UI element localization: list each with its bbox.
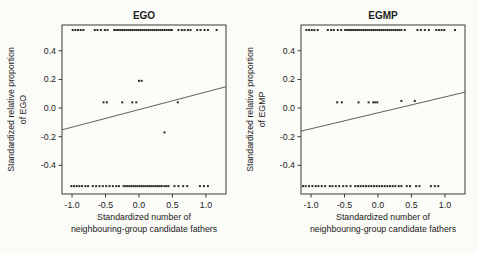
y-tick-label: 0.2 (283, 74, 295, 84)
data-point (133, 29, 135, 31)
data-point (350, 29, 352, 31)
data-point (157, 185, 159, 187)
data-point (392, 185, 394, 187)
data-point (70, 185, 72, 187)
data-point (346, 29, 348, 31)
data-point (155, 185, 157, 187)
x-tick-label: -0.5 (337, 200, 352, 210)
data-point (171, 29, 173, 31)
data-point (372, 101, 374, 103)
data-point (143, 185, 145, 187)
data-point (137, 185, 139, 187)
data-point (147, 185, 149, 187)
data-point (104, 29, 106, 31)
data-point (163, 29, 165, 31)
data-point (438, 29, 440, 31)
data-point (73, 185, 75, 187)
data-point (149, 185, 151, 187)
data-point (138, 80, 140, 82)
data-point (165, 185, 167, 187)
data-point (199, 185, 201, 187)
data-point (336, 101, 338, 103)
data-point (430, 185, 432, 187)
data-point (200, 29, 202, 31)
y-axis-label: Standardized relative proportion (245, 47, 255, 172)
data-point (139, 29, 141, 31)
y-axis-label: Standardized relative proportion (6, 47, 16, 172)
data-point (400, 29, 402, 31)
data-point (311, 185, 313, 187)
data-point (441, 29, 443, 31)
data-point (131, 101, 133, 103)
data-point (360, 185, 362, 187)
data-point (324, 185, 326, 187)
data-point (106, 101, 108, 103)
data-point (342, 185, 344, 187)
data-point (302, 185, 304, 187)
data-point (305, 185, 307, 187)
data-point (143, 29, 145, 31)
data-point (84, 185, 86, 187)
data-point (161, 185, 163, 187)
data-point (373, 185, 375, 187)
data-point (125, 185, 127, 187)
data-point (400, 185, 402, 187)
data-point (341, 101, 343, 103)
data-point (416, 29, 418, 31)
data-point (121, 29, 123, 31)
x-tick-label: -1.0 (64, 200, 79, 210)
data-point (149, 29, 151, 31)
data-point (435, 29, 437, 31)
data-point (82, 29, 84, 31)
x-tick-label: 0.0 (372, 200, 384, 210)
data-point (376, 185, 378, 187)
data-point (196, 29, 198, 31)
data-point (87, 185, 89, 187)
data-point (153, 29, 155, 31)
data-point (308, 29, 310, 31)
data-point (77, 29, 79, 31)
data-point (76, 185, 78, 187)
data-point (333, 29, 335, 31)
data-point (72, 29, 74, 31)
data-point (125, 29, 127, 31)
data-point (177, 101, 179, 103)
data-point (394, 185, 396, 187)
data-point (317, 185, 319, 187)
data-point (368, 101, 370, 103)
data-point (135, 29, 137, 31)
data-point (368, 29, 370, 31)
data-point (384, 29, 386, 31)
data-point (437, 185, 439, 187)
data-point (360, 29, 362, 31)
x-axis-label: neighbouring-group candidate fathers (71, 224, 218, 234)
x-tick-label: 0.0 (133, 200, 145, 210)
data-point (380, 29, 382, 31)
data-point (165, 29, 167, 31)
x-tick-label: 1.0 (439, 200, 451, 210)
data-point (317, 29, 319, 31)
data-point (141, 80, 143, 82)
x-tick-label: -0.5 (98, 200, 113, 210)
data-point (305, 29, 307, 31)
data-point (340, 29, 342, 31)
data-point (365, 185, 367, 187)
x-tick-label: 1.0 (200, 200, 212, 210)
data-point (153, 185, 155, 187)
data-point (370, 185, 372, 187)
data-point (177, 185, 179, 187)
data-point (123, 185, 125, 187)
data-point (331, 185, 333, 187)
data-point (374, 29, 376, 31)
data-point (151, 185, 153, 187)
data-point (94, 29, 96, 31)
data-point (354, 185, 356, 187)
data-point (167, 185, 169, 187)
data-point (386, 29, 388, 31)
data-point (420, 29, 422, 31)
data-point (131, 185, 133, 187)
data-point (381, 185, 383, 187)
y-tick-label: 0.4 (44, 46, 56, 56)
data-point (368, 185, 370, 187)
y-tick-label: -0.4 (280, 160, 295, 170)
